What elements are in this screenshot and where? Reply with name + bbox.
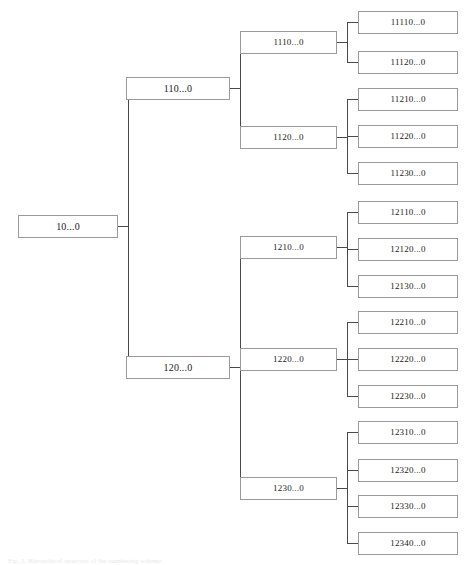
tree-node-10-0: 10...0 xyxy=(18,215,118,238)
tree-node-1220-0: 1220...0 xyxy=(240,348,337,371)
tree-node-11230-0: 11230...0 xyxy=(358,162,458,185)
tree-node-label: 1120...0 xyxy=(273,133,304,142)
tree-node-label: 110...0 xyxy=(164,83,193,93)
tree-node-label: 12230...0 xyxy=(390,392,426,401)
tree-node-label: 11120...0 xyxy=(391,58,426,67)
tree-node-label: 12110...0 xyxy=(390,208,425,217)
tree-node-label: 10...0 xyxy=(56,221,80,231)
tree-node-12340-0: 12340...0 xyxy=(358,532,458,555)
tree-node-12230-0: 12230...0 xyxy=(358,385,458,408)
tree-node-1120-0: 1120...0 xyxy=(240,126,337,149)
tree-node-110-0: 110...0 xyxy=(126,77,230,100)
tree-node-label: 12320...0 xyxy=(390,466,426,475)
tree-node-11120-0: 11120...0 xyxy=(358,51,458,74)
tree-node-12210-0: 12210...0 xyxy=(358,311,458,334)
tree-node-label: 12220...0 xyxy=(390,355,426,364)
tree-node-label: 12310...0 xyxy=(390,428,426,437)
tree-node-label: 11230...0 xyxy=(390,169,425,178)
tree-node-11210-0: 11210...0 xyxy=(358,88,458,111)
tree-node-label: 1210...0 xyxy=(273,243,304,252)
tree-node-11220-0: 11220...0 xyxy=(358,125,458,148)
tree-node-12310-0: 12310...0 xyxy=(358,421,458,444)
tree-node-label: 12210...0 xyxy=(390,318,426,327)
tree-node-label: 12120...0 xyxy=(390,245,426,254)
tree-node-label: 1110...0 xyxy=(273,38,303,47)
tree-node-120-0: 120...0 xyxy=(126,356,230,379)
tree-node-label: 1220...0 xyxy=(273,355,304,364)
tree-node-label: 11210...0 xyxy=(390,95,425,104)
tree-diagram-figure: 10...0110...0120...01110...01120...01210… xyxy=(0,0,467,565)
tree-node-12120-0: 12120...0 xyxy=(358,238,458,261)
tree-node-label: 12340...0 xyxy=(390,539,426,548)
tree-node-label: 11110...0 xyxy=(391,18,426,27)
tree-node-12330-0: 12330...0 xyxy=(358,495,458,518)
tree-node-1230-0: 1230...0 xyxy=(240,477,337,500)
tree-node-12130-0: 12130...0 xyxy=(358,275,458,298)
tree-node-label: 12330...0 xyxy=(390,502,426,511)
tree-node-1110-0: 1110...0 xyxy=(240,31,337,54)
tree-node-label: 1230...0 xyxy=(273,484,304,493)
tree-node-label: 11220...0 xyxy=(390,132,425,141)
tree-node-label: 120...0 xyxy=(164,362,193,372)
tree-node-12320-0: 12320...0 xyxy=(358,459,458,482)
tree-node-label: 12130...0 xyxy=(390,282,426,291)
tree-node-1210-0: 1210...0 xyxy=(240,236,337,259)
tree-node-12110-0: 12110...0 xyxy=(358,201,458,224)
figure-caption: Fig. 2. Hierarchical structure of the nu… xyxy=(8,557,308,565)
tree-node-11110-0: 11110...0 xyxy=(358,11,458,34)
tree-node-12220-0: 12220...0 xyxy=(358,348,458,371)
